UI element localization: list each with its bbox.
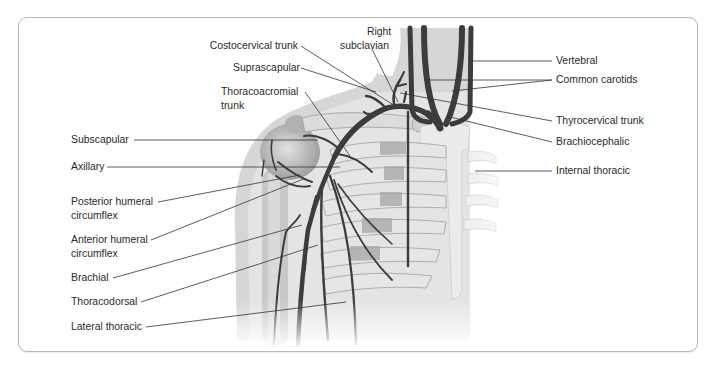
label-line-1: Thoracoacromial (221, 85, 298, 99)
label-line-2: trunk (221, 99, 298, 113)
label-brachial: Brachial (71, 271, 109, 285)
label-brachiocephalic: Brachiocephalic (556, 135, 629, 149)
anatomy-illustration (0, 0, 716, 366)
label-line-1: Posterior humeral (71, 195, 153, 209)
label-thoracoacromial-trunk: Thoracoacromial trunk (221, 85, 298, 113)
label-thyrocervical-trunk: Thyrocervical trunk (556, 114, 644, 128)
label-lateral-thoracic: Lateral thoracic (71, 320, 142, 334)
label-axillary: Axillary (71, 160, 105, 174)
label-thoracodorsal: Thoracodorsal (71, 295, 137, 309)
label-internal-thoracic: Internal thoracic (556, 164, 630, 178)
label-line-1: Right (340, 25, 391, 39)
label-costocervical-trunk: Costocervical trunk (210, 39, 298, 53)
label-suprascapular: Suprascapular (233, 61, 300, 75)
label-right-subclavian: Right subclavian (340, 25, 391, 53)
label-posterior-humeral-circumflex: Posterior humeral circumflex (71, 195, 153, 223)
label-line-2: circumflex (71, 247, 148, 261)
label-subscapular: Subscapular (71, 133, 129, 147)
label-common-carotids: Common carotids (556, 73, 637, 87)
label-line-2: subclavian (340, 39, 391, 53)
label-line-1: Anterior humeral (71, 233, 148, 247)
label-anterior-humeral-circumflex: Anterior humeral circumflex (71, 233, 148, 261)
label-vertebral: Vertebral (556, 54, 598, 68)
label-line-2: circumflex (71, 209, 153, 223)
